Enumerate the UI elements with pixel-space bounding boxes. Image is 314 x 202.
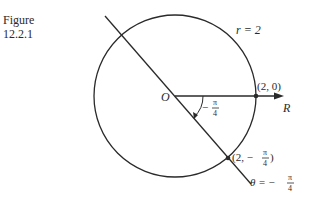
ray-point-prefix: (2, − (232, 151, 253, 164)
polar-diagram: r = 2 O R (2, 0) − π 4 (2, − π 4 ) θ = −… (0, 0, 314, 202)
circle-label: r = 2 (236, 23, 261, 37)
point-on-axis-label: (2, 0) (257, 80, 281, 93)
origin-label: O (161, 90, 170, 104)
point-2-0 (254, 94, 259, 99)
theta-den: 4 (288, 184, 292, 193)
angle-sign: − (202, 101, 208, 113)
ray-point-num: π (263, 148, 267, 157)
angle-num: π (213, 98, 217, 107)
theta-prefix: θ = − (250, 176, 276, 188)
theta-num: π (288, 173, 292, 182)
theta-label: θ = − π 4 (250, 173, 294, 193)
ray-point-den: 4 (263, 159, 267, 168)
angle-label: − π 4 (202, 98, 219, 118)
axis-arrow-icon (274, 93, 284, 100)
point-2-minus-pi-4 (226, 156, 231, 161)
ray-point-suffix: ) (270, 151, 274, 164)
point-on-ray-label: (2, − π 4 ) (232, 148, 274, 168)
angle-den: 4 (213, 109, 217, 118)
axis-label: R (282, 101, 291, 115)
